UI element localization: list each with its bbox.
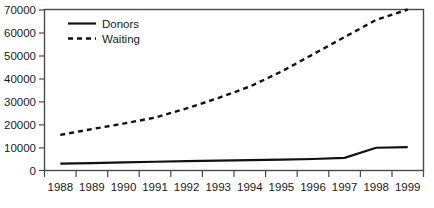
chart-legend: Donors Waiting bbox=[68, 18, 140, 45]
x-tick-label: 1999 bbox=[395, 181, 421, 193]
x-tick-label: 1993 bbox=[205, 181, 231, 193]
x-axis-ticks bbox=[45, 171, 424, 178]
x-tick-label: 1998 bbox=[363, 181, 389, 193]
x-axis-labels: 1988 1989 1990 1991 1992 1993 1994 1995 … bbox=[48, 181, 421, 193]
x-tick-label: 1995 bbox=[269, 181, 295, 193]
legend-label-waiting: Waiting bbox=[102, 33, 140, 45]
line-chart: 70000 60000 50000 40000 30000 20000 1000… bbox=[0, 0, 434, 208]
x-tick-label: 1997 bbox=[332, 181, 358, 193]
y-tick-label: 20000 bbox=[4, 119, 36, 131]
legend-label-donors: Donors bbox=[102, 18, 139, 30]
x-tick-label: 1988 bbox=[48, 181, 74, 193]
y-tick-label: 10000 bbox=[4, 142, 36, 154]
chart-canvas: 70000 60000 50000 40000 30000 20000 1000… bbox=[0, 0, 434, 208]
y-tick-label: 40000 bbox=[4, 73, 36, 85]
x-tick-label: 1989 bbox=[79, 181, 105, 193]
x-tick-label: 1990 bbox=[111, 181, 137, 193]
y-axis-labels: 70000 60000 50000 40000 30000 20000 1000… bbox=[4, 4, 36, 177]
y-tick-label: 0 bbox=[30, 165, 36, 177]
x-tick-label: 1992 bbox=[174, 181, 200, 193]
x-tick-label: 1991 bbox=[142, 181, 168, 193]
series-line-donors bbox=[60, 147, 407, 164]
y-tick-label: 70000 bbox=[4, 4, 36, 16]
y-axis-ticks bbox=[39, 10, 45, 171]
y-tick-label: 30000 bbox=[4, 96, 36, 108]
x-tick-label: 1994 bbox=[237, 181, 263, 193]
x-tick-label: 1996 bbox=[300, 181, 326, 193]
y-tick-label: 60000 bbox=[4, 27, 36, 39]
y-tick-label: 50000 bbox=[4, 50, 36, 62]
